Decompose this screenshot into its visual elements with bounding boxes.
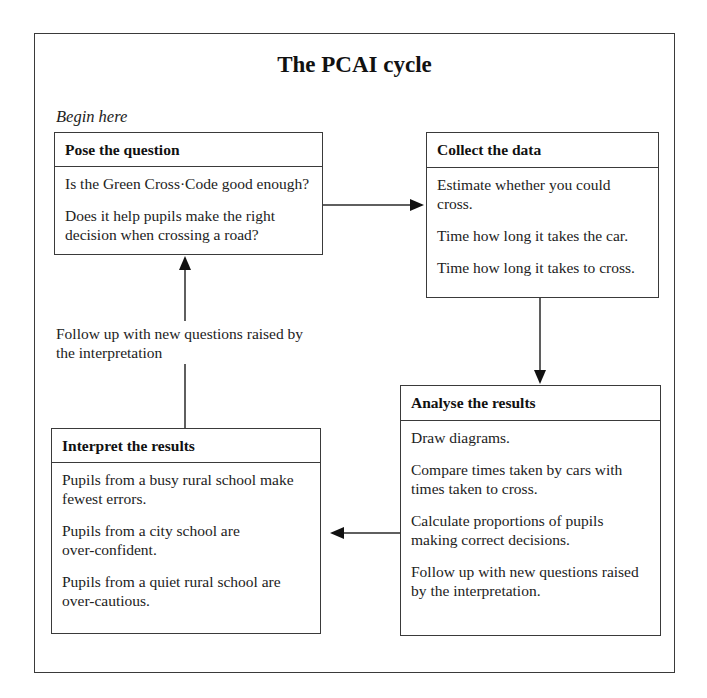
arrowhead-up-icon bbox=[179, 256, 191, 270]
arrowhead-left-icon bbox=[330, 527, 344, 539]
arrowhead-down-icon bbox=[534, 370, 546, 384]
arrowhead-right-icon bbox=[410, 199, 424, 211]
flow-arrows bbox=[0, 0, 707, 698]
